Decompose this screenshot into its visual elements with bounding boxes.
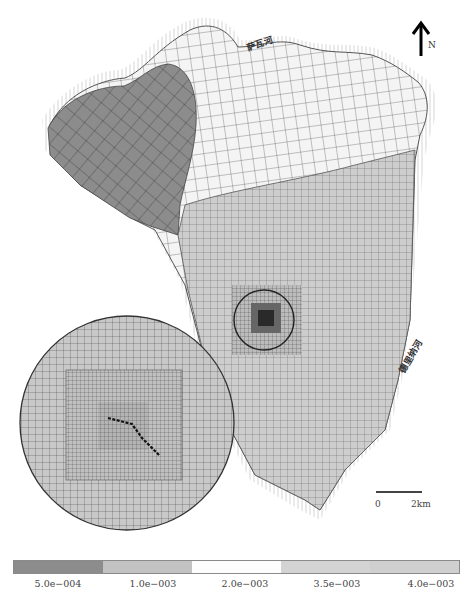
- legend-label-1: 5.0e−004: [35, 578, 82, 589]
- legend-swatch-2: [103, 561, 192, 573]
- color-legend: [13, 560, 460, 574]
- legend-label-4: 3.5e−003: [314, 578, 361, 589]
- north-label: N: [428, 40, 436, 50]
- legend-labels: 5.0e−004 1.0e−003 2.0e−003 3.5e−003 4.0e…: [0, 578, 471, 594]
- legend-swatch-1: [14, 561, 103, 573]
- scale-bar: [376, 491, 422, 493]
- mesh-map: [0, 0, 471, 545]
- legend-swatch-5: [370, 561, 459, 573]
- legend-swatch-4: [281, 561, 370, 573]
- scale-end-label: 2km: [411, 499, 431, 509]
- inset-magnified-view: [20, 316, 234, 530]
- scale-start-label: 0: [375, 499, 381, 509]
- legend-label-3: 2.0e−003: [222, 578, 269, 589]
- legend-swatch-3: [192, 561, 281, 573]
- legend-label-2: 1.0e−003: [130, 578, 177, 589]
- legend-label-5: 4.0e−003: [408, 578, 455, 589]
